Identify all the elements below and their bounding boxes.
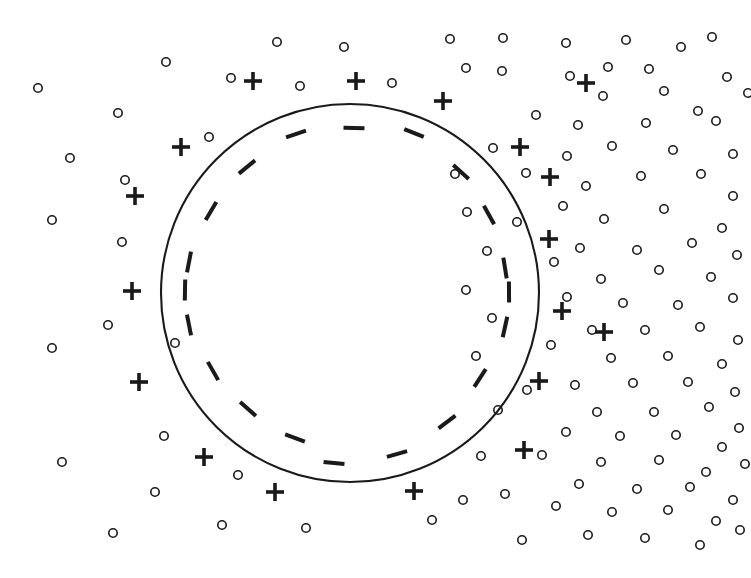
ambient-ion-glyph xyxy=(707,273,715,281)
negative-charge-glyph xyxy=(501,316,509,337)
ambient-ion-glyph xyxy=(705,403,713,411)
ambient-ion-glyph xyxy=(559,202,567,210)
positive-charge-glyph xyxy=(130,373,148,391)
ambient-ion-glyph xyxy=(523,386,531,394)
ambient-ion-glyph xyxy=(633,246,641,254)
ambient-ion-glyph xyxy=(664,352,672,360)
ambient-ion-glyph xyxy=(234,471,242,479)
ambient-ion-glyph xyxy=(121,176,129,184)
positive-charge-glyph xyxy=(123,282,141,300)
ambient-ion-glyph xyxy=(576,244,584,252)
ambient-ion-glyph xyxy=(645,65,653,73)
ambient-ion-glyph xyxy=(622,36,630,44)
positive-charge-glyph xyxy=(195,448,213,466)
positive-charge-glyph xyxy=(126,187,144,205)
ambient-ion-glyph xyxy=(599,92,607,100)
ambient-ion-glyph xyxy=(744,89,751,97)
negative-charge-glyph xyxy=(343,126,364,131)
ambient-ion-glyph xyxy=(588,326,596,334)
negative-charge-glyph xyxy=(285,129,306,140)
ambient-ion-glyph xyxy=(686,483,694,491)
ambient-ion-glyph xyxy=(499,34,507,42)
ambient-ion-glyph xyxy=(550,258,558,266)
ambient-ion-glyph xyxy=(562,39,570,47)
ambient-ion-glyph xyxy=(597,458,605,466)
ambient-ion-glyph xyxy=(597,275,605,283)
ambient-ion-glyph xyxy=(114,109,122,117)
ambient-ion-glyph xyxy=(428,516,436,524)
ambient-ion-glyph xyxy=(729,150,737,158)
ambient-ion-glyph xyxy=(718,443,726,451)
ambient-ion-glyph xyxy=(677,43,685,51)
positive-charge-glyph xyxy=(595,323,613,341)
negative-charge-glyph xyxy=(482,205,496,225)
negative-charge-glyph xyxy=(238,159,257,175)
ambient-ion-glyph xyxy=(462,286,470,294)
ambient-ion-glyph xyxy=(563,293,571,301)
ambient-ion-glyph xyxy=(151,488,159,496)
positive-charge-glyph xyxy=(541,168,559,186)
ambient-ion-glyph xyxy=(718,224,726,232)
ambient-ion-layer-dense xyxy=(428,33,751,549)
positive-charge-glyph xyxy=(553,302,571,320)
negative-charge-glyph xyxy=(185,251,193,272)
ambient-ion-glyph xyxy=(538,451,546,459)
negative-charge-glyph xyxy=(284,432,305,443)
ambient-ion-glyph xyxy=(633,485,641,493)
ambient-ion-glyph xyxy=(616,432,624,440)
ambient-ion-glyph xyxy=(660,205,668,213)
ambient-ion-glyph xyxy=(712,517,720,525)
negative-charge-glyph xyxy=(204,201,218,221)
ambient-ion-glyph xyxy=(608,508,616,516)
ambient-ion-glyph xyxy=(48,216,56,224)
ambient-ion-glyph xyxy=(696,323,704,331)
ambient-ion-glyph xyxy=(684,378,692,386)
ambient-ion-glyph xyxy=(708,33,716,41)
ambient-ion-glyph xyxy=(607,354,615,362)
ambient-ion-glyph xyxy=(205,133,213,141)
positive-charge-glyph xyxy=(266,483,284,501)
ambient-ion-glyph xyxy=(731,388,739,396)
ambient-ion-glyph xyxy=(227,74,235,82)
ambient-ion-glyph xyxy=(702,468,710,476)
ambient-ion-glyph xyxy=(477,452,485,460)
ambient-ion-glyph xyxy=(489,144,497,152)
ambient-ion-glyph xyxy=(729,192,737,200)
ambient-ion-glyph xyxy=(501,490,509,498)
negative-charge-glyph xyxy=(386,449,407,459)
ambient-ion-glyph xyxy=(571,381,579,389)
ambient-ion-glyph xyxy=(575,480,583,488)
ambient-ion-glyph xyxy=(723,73,731,81)
negative-charge-glyph xyxy=(239,401,257,418)
ambient-ion-glyph xyxy=(296,82,304,90)
positive-charge-glyph xyxy=(244,72,262,90)
ambient-ion-glyph xyxy=(629,379,637,387)
ambient-ion-glyph xyxy=(273,38,281,46)
ambient-ion-glyph xyxy=(734,336,742,344)
ambient-ion-glyph xyxy=(729,496,737,504)
ambient-ion-glyph xyxy=(518,536,526,544)
ambient-ion-glyph xyxy=(459,496,467,504)
ambient-ion-glyph xyxy=(718,360,726,368)
ambient-ion-glyph xyxy=(582,182,590,190)
negative-charge-glyph xyxy=(206,361,220,381)
ambient-ion-glyph xyxy=(697,170,705,178)
ambient-ion-glyph xyxy=(736,526,744,534)
positive-charge-glyph xyxy=(405,482,423,500)
negative-charge-glyph xyxy=(185,314,193,335)
ambient-ion-glyph xyxy=(171,339,179,347)
ambient-ion-glyph xyxy=(472,352,480,360)
ambient-ion-glyph xyxy=(574,121,582,129)
ambient-ion-glyph xyxy=(388,79,396,87)
ambient-ion-glyph xyxy=(696,541,704,549)
positive-charge-glyph xyxy=(540,230,558,248)
ambient-ion-glyph xyxy=(451,170,459,178)
ambient-ion-glyph xyxy=(641,326,649,334)
ambient-ion-glyph xyxy=(735,424,743,432)
ambient-ion-glyph xyxy=(674,301,682,309)
positive-charge-glyph xyxy=(515,441,533,459)
ambient-ion-glyph xyxy=(733,251,741,259)
negative-charge-glyph xyxy=(404,127,425,139)
ambient-ion-glyph xyxy=(642,119,650,127)
ambient-ion-glyph xyxy=(488,314,496,322)
